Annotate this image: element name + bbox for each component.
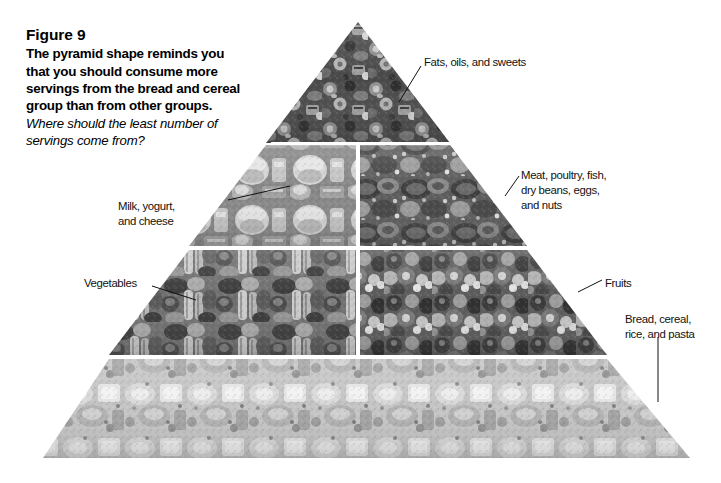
leader-line-fruits [578,280,602,292]
figure-canvas: Figure 9 The pyramid shape reminds you t… [0,0,721,483]
label-meat-poultry-fish: Meat, poultry, fish, dry beans, eggs, an… [521,168,606,212]
pyramid-svg [0,0,721,483]
label-milk-yogurt-cheese: Milk, yogurt, and cheese [118,199,175,229]
tier-meat-poultry-fish [355,140,540,255]
tier-vegetables [100,245,365,365]
label-fats-oils-sweets: Fats, oils, and sweets [424,55,526,70]
tier-fruits [355,245,620,365]
food-guide-pyramid [0,0,721,483]
label-vegetables: Vegetables [84,276,137,291]
leader-line-meat [505,176,519,196]
label-bread-cereal-rice-pasta: Bread, cereal, rice, and pasta [625,312,694,342]
pyramid-tiers [35,15,700,465]
label-fruits: Fruits [605,276,631,291]
tier-bread-cereal-rice-pasta [35,355,700,465]
tier-milk-yogurt-cheese [180,140,370,255]
tier-fats-oils-sweets [250,15,470,155]
